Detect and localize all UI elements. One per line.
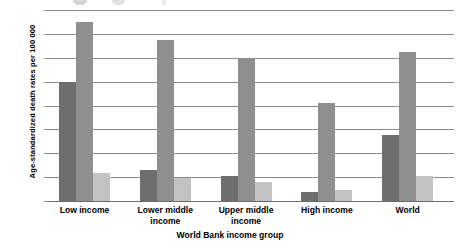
bar — [157, 40, 174, 201]
bar-group — [59, 10, 110, 201]
legend-swatch-series-2-cropped — [112, 0, 125, 5]
y-tick-mark — [44, 129, 50, 130]
bar — [318, 103, 335, 201]
x-tick-label-line: High income — [282, 205, 372, 216]
x-tick-label-line: Lower middle — [120, 205, 210, 216]
bar — [301, 192, 318, 201]
y-tick-mark — [44, 58, 50, 59]
y-tick-mark — [44, 106, 50, 107]
bar — [140, 170, 157, 201]
bar — [399, 52, 416, 201]
x-tick-label: Upper middleincome — [201, 205, 291, 227]
y-axis-title: Age-standardized death rates per 100 000 — [28, 7, 37, 197]
x-tick-label-line: income — [120, 216, 210, 227]
bar-group — [301, 10, 352, 201]
bar — [416, 176, 433, 201]
axis-baseline — [50, 201, 454, 202]
bar-group — [140, 10, 191, 201]
y-tick-mark — [44, 201, 50, 202]
y-tick-mark — [44, 177, 50, 178]
bar-group — [221, 10, 272, 201]
x-axis-title: World Bank income group — [0, 230, 460, 240]
bar — [93, 173, 110, 201]
x-tick-label-line: Low income — [40, 205, 130, 216]
bar-group — [382, 10, 433, 201]
x-tick-label: High income — [282, 205, 372, 216]
y-tick-mark — [44, 10, 50, 11]
bar — [255, 182, 272, 201]
y-tick-mark — [44, 153, 50, 154]
bar — [221, 176, 238, 201]
x-tick-label: World — [363, 205, 453, 216]
x-tick-label-line: Upper middle — [201, 205, 291, 216]
y-tick-mark — [44, 34, 50, 35]
x-tick-label-line: income — [201, 216, 291, 227]
x-tick-label: Lower middleincome — [120, 205, 210, 227]
plot-area: 8007006005004003002001000 — [50, 10, 454, 201]
bar — [59, 82, 76, 201]
legend-swatch-series-1-cropped — [73, 0, 87, 5]
x-tick-label-line: World — [363, 205, 453, 216]
bar — [335, 190, 352, 201]
bar — [382, 135, 399, 201]
bar — [238, 58, 255, 201]
bar — [76, 22, 93, 201]
legend-swatch-series-3-cropped — [162, 0, 166, 5]
y-tick-mark — [44, 82, 50, 83]
bar — [174, 178, 191, 201]
bar-chart: Age-standardized death rates per 100 000… — [0, 0, 460, 249]
x-tick-label: Low income — [40, 205, 130, 216]
